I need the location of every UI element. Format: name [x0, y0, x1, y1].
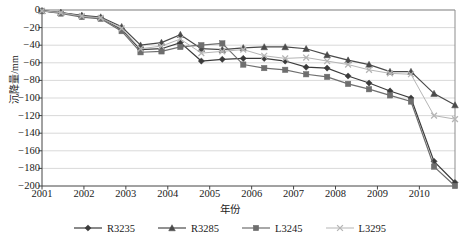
data-point: [452, 183, 457, 188]
data-point: [178, 44, 183, 49]
data-point: [282, 67, 287, 72]
legend-item-L3295[interactable]: L3295: [325, 222, 386, 234]
x-tick-label: 2006: [230, 188, 274, 199]
legend-marker-diamond-icon: [73, 222, 103, 234]
y-tick-label: −180: [12, 163, 40, 173]
legend-item-R3285[interactable]: R3285: [157, 222, 219, 234]
x-tick-label: 2010: [397, 188, 441, 199]
settlement-line-chart: 沉降量/mm 0−20−40−60−80−100−120−140−160−180…: [0, 0, 459, 245]
legend-label: L3295: [358, 223, 386, 234]
data-point: [241, 62, 246, 67]
legend-marker-triangle-icon: [157, 222, 187, 234]
data-point: [366, 80, 372, 86]
data-point: [452, 102, 459, 108]
data-point: [85, 225, 91, 231]
data-point: [345, 73, 351, 79]
legend-marker-square-icon: [241, 222, 271, 234]
data-point: [303, 64, 309, 70]
y-tick-label: −60: [12, 58, 40, 68]
data-point: [253, 225, 258, 230]
legend-label: R3285: [190, 223, 219, 234]
data-point: [199, 43, 204, 48]
data-point: [431, 164, 436, 169]
x-axis-title: 年份: [0, 201, 459, 216]
x-tick-label: 2003: [104, 188, 148, 199]
y-tick-label: −80: [12, 75, 40, 85]
data-point: [366, 87, 371, 92]
data-point: [387, 93, 392, 98]
legend-item-R3235[interactable]: R3235: [73, 222, 135, 234]
legend-marker-x-icon: [325, 222, 355, 234]
y-tick-label: −140: [12, 128, 40, 138]
x-tick-label: 2004: [146, 188, 190, 199]
data-point: [219, 56, 225, 62]
data-point: [262, 65, 267, 70]
chart-legend: R3235R3285L3245L3295: [0, 222, 459, 234]
data-point: [159, 49, 164, 54]
data-point: [220, 41, 225, 46]
x-tick-label: 2005: [188, 188, 232, 199]
legend-label: R3235: [106, 223, 135, 234]
y-tick-label: −40: [12, 40, 40, 50]
series-line: [42, 11, 455, 186]
data-point: [240, 55, 246, 61]
y-tick-label: −100: [12, 93, 40, 103]
x-tick-label: 2007: [272, 188, 316, 199]
x-tick-label: 2009: [355, 188, 399, 199]
data-point: [345, 81, 350, 86]
data-point: [324, 65, 330, 71]
legend-item-L3245[interactable]: L3245: [241, 222, 302, 234]
data-point: [408, 99, 413, 104]
x-tick-label: 2008: [314, 188, 358, 199]
series-L3245: [39, 8, 457, 189]
legend-label: L3245: [274, 223, 302, 234]
data-point: [303, 72, 308, 77]
y-tick-label: 0: [12, 5, 40, 15]
x-tick-label: 2001: [20, 188, 64, 199]
x-tick-label: 2002: [62, 188, 106, 199]
data-point: [324, 74, 329, 79]
y-tick-label: −120: [12, 111, 40, 121]
y-tick-label: −20: [12, 23, 40, 33]
y-tick-label: −160: [12, 146, 40, 156]
